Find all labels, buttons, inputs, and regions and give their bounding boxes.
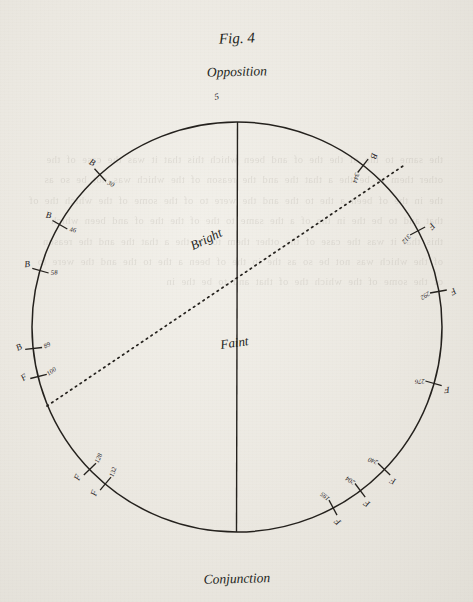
tick-mark xyxy=(358,159,368,172)
tick-value-label: 344 xyxy=(351,171,361,184)
tick-symbol-label: B xyxy=(88,157,98,169)
tick-symbol-label: F xyxy=(71,472,83,482)
tick-value-label: 240 xyxy=(366,456,378,466)
tick-symbol-label: F xyxy=(448,285,459,297)
vertical-diameter-axis xyxy=(237,122,238,532)
tick-value-label: 89 xyxy=(42,340,52,350)
tick-value-label: 100 xyxy=(45,365,58,377)
tick-mark xyxy=(53,221,68,230)
tick-mark xyxy=(329,500,337,515)
tick-value-label: 30 xyxy=(106,179,117,189)
tick-mark xyxy=(25,348,42,350)
tick-value-label: 132 xyxy=(108,465,118,477)
tick-value-label: 276 xyxy=(414,378,425,386)
bright-region-label: Bright xyxy=(188,225,225,253)
tick-symbol-label: F xyxy=(18,371,30,383)
tick-value-label: 46 xyxy=(69,226,77,234)
dotted-dividing-chord xyxy=(47,166,403,406)
tick-mark xyxy=(410,227,425,235)
tick-value-label: 128 xyxy=(93,451,104,464)
tick-symbol-label: B xyxy=(45,210,52,221)
tick-symbol-label: B xyxy=(14,341,24,353)
tick-symbol-label: F xyxy=(88,488,100,498)
opposition-label: Opposition xyxy=(207,63,268,80)
tick-symbol-label: F xyxy=(388,475,398,487)
tick-symbol-label: F xyxy=(443,385,451,396)
tick-value-label: 58 xyxy=(50,268,58,276)
tick-symbol-label: F xyxy=(361,498,372,510)
conjunction-label: Conjunction xyxy=(203,570,270,587)
tick-value-label: 292 xyxy=(419,291,432,303)
tick-symbol-label: F xyxy=(426,221,438,233)
tick-value-label: 204 xyxy=(343,475,356,486)
tick-mark xyxy=(355,484,365,498)
figure-title: Fig. 4 xyxy=(218,29,256,46)
tick-symbol-label: F xyxy=(332,516,344,528)
tick-symbol-label: B xyxy=(24,259,31,270)
tick-value-label: 195 xyxy=(318,490,331,502)
tick-symbol-label: B xyxy=(368,152,379,161)
top-tick-symbol: 5 xyxy=(213,91,220,102)
figure-4-diagram: Fig. 4 Opposition Conjunction Bright Fai… xyxy=(0,0,473,602)
faint-region-label: Faint xyxy=(218,333,249,352)
